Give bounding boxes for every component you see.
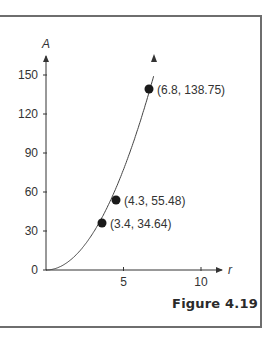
data-point-label: (6.8, 138.75) (157, 83, 225, 97)
curve (46, 54, 157, 270)
x-tick-label: 5 (120, 275, 127, 289)
y-axis-label: A (41, 37, 50, 51)
y-tick-label: 0 (31, 263, 38, 277)
data-point-marker (145, 85, 154, 94)
data-points: (3.4, 34.64)(4.3, 55.48)(6.8, 138.75) (98, 83, 226, 231)
data-point-label: (3.4, 34.64) (110, 217, 171, 231)
x-tick-label: 10 (194, 275, 208, 289)
data-point-label: (4.3, 55.48) (124, 194, 185, 208)
y-tick-label: 90 (25, 146, 39, 160)
figure-caption: Figure 4.19 (172, 296, 258, 311)
data-point-marker (112, 196, 121, 205)
y-tick-label: 60 (25, 185, 39, 199)
data-point-marker (98, 219, 107, 228)
y-tick-label: 30 (25, 224, 39, 238)
curve-line (46, 76, 154, 270)
chart: rA0306090120150510 (3.4, 34.64)(4.3, 55.… (0, 0, 280, 341)
y-tick-label: 150 (18, 68, 38, 82)
y-tick-label: 120 (18, 107, 38, 121)
curve-arrow-icon (151, 54, 157, 62)
x-axis-label: r (228, 263, 233, 277)
